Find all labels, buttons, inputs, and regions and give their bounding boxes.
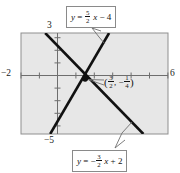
eq2-slope-denominator: 2 xyxy=(96,160,101,168)
eq2-slope-fraction: 3 2 xyxy=(96,153,101,168)
equation-label-line2: y = − 3 2 x + 2 xyxy=(72,150,127,172)
eq1-constant: 4 xyxy=(107,12,112,22)
eq1-equals: = xyxy=(77,12,82,22)
eq1-variable: x xyxy=(93,12,97,22)
graph-figure: −2 6 3 −5 y = 5 2 x − 4 y = − 3 2 x + 2 xyxy=(0,0,180,173)
equation-label-line1: y = 5 2 x − 4 xyxy=(66,6,116,28)
eq2-sign: − xyxy=(91,156,96,166)
point-x-denominator: 2 xyxy=(108,81,113,89)
eq2-operator: + xyxy=(111,156,116,166)
point-y-fraction: 1 4 xyxy=(124,74,129,89)
eq2-y: y xyxy=(77,156,81,166)
x-axis-right-label: 6 xyxy=(170,69,175,79)
point-open-paren: ( xyxy=(104,76,108,88)
point-y-numerator: 1 xyxy=(124,74,129,81)
point-y-denominator: 4 xyxy=(124,81,129,89)
leader-line-point-label-tail xyxy=(88,80,104,81)
eq2-variable: x xyxy=(104,156,108,166)
eq1-y: y xyxy=(71,12,75,22)
eq1-slope-denominator: 2 xyxy=(85,16,90,24)
eq1-slope-numerator: 5 xyxy=(85,9,90,16)
point-comma: , xyxy=(114,77,116,87)
eq1-slope-fraction: 5 2 xyxy=(85,9,90,24)
intersection-point-label: ( 3 2 , − 1 4 ) xyxy=(104,74,134,89)
y-axis-top-label: 3 xyxy=(47,21,52,31)
intersection-point-marker xyxy=(82,76,88,82)
eq2-constant: 2 xyxy=(118,156,123,166)
eq1-operator: − xyxy=(99,12,104,22)
point-x-fraction: 3 2 xyxy=(108,74,113,89)
eq2-slope-numerator: 3 xyxy=(96,153,101,160)
x-axis-left-label: −2 xyxy=(1,69,11,79)
y-axis-bottom-label: −5 xyxy=(44,136,54,146)
point-x-numerator: 3 xyxy=(108,74,113,81)
point-close-paren: ) xyxy=(130,76,134,88)
point-y-sign: − xyxy=(119,77,124,87)
eq2-equals: = xyxy=(83,156,88,166)
